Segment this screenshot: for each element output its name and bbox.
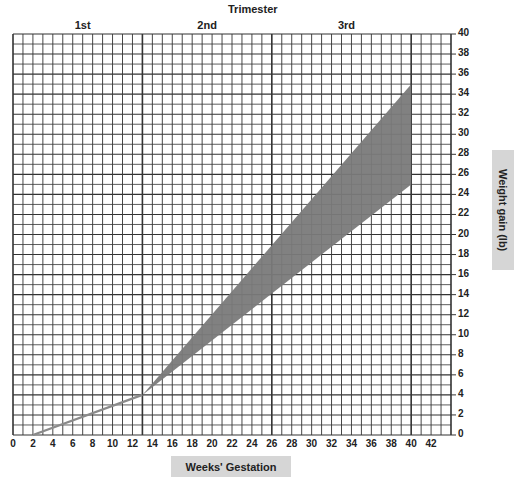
- y-tick-label: 30: [458, 127, 469, 138]
- x-tick-label: 28: [286, 438, 297, 449]
- x-tick-label: 8: [90, 438, 96, 449]
- y-tick-label: 22: [458, 207, 469, 218]
- x-tick-label: 38: [386, 438, 397, 449]
- x-tick-label: 40: [406, 438, 417, 449]
- y-tick-label: 24: [458, 187, 469, 198]
- x-tick-label: 16: [167, 438, 178, 449]
- y-tick-label: 12: [458, 308, 469, 319]
- x-tick-label: 24: [246, 438, 257, 449]
- y-tick-label: 26: [458, 167, 469, 178]
- y-tick-label: 2: [458, 408, 464, 419]
- y-tick-label: 10: [458, 328, 469, 339]
- y-tick-label: 34: [458, 87, 469, 98]
- y-tick-label: 36: [458, 67, 469, 78]
- x-tick-label: 10: [107, 438, 118, 449]
- y-tick-label: 6: [458, 368, 464, 379]
- x-axis-label: Weeks' Gestation: [171, 456, 291, 477]
- chart-plot-area: [0, 0, 514, 486]
- y-tick-label: 28: [458, 147, 469, 158]
- y-tick-label: 20: [458, 228, 469, 239]
- y-tick-label: 4: [458, 388, 464, 399]
- y-axis-label: Weight gain (lb): [492, 150, 514, 270]
- y-tick-label: 0: [458, 428, 464, 439]
- y-tick-label: 32: [458, 107, 469, 118]
- x-tick-label: 4: [50, 438, 56, 449]
- x-tick-label: 30: [306, 438, 317, 449]
- y-tick-label: 8: [458, 348, 464, 359]
- x-tick-label: 20: [207, 438, 218, 449]
- x-tick-label: 42: [426, 438, 437, 449]
- x-tick-label: 32: [326, 438, 337, 449]
- x-tick-label: 12: [127, 438, 138, 449]
- x-tick-label: 0: [10, 438, 16, 449]
- y-tick-label: 18: [458, 248, 469, 259]
- y-tick-label: 40: [458, 27, 469, 38]
- y-tick-label: 16: [458, 268, 469, 279]
- x-tick-label: 2: [30, 438, 36, 449]
- y-tick-label: 38: [458, 47, 469, 58]
- x-tick-label: 22: [226, 438, 237, 449]
- x-tick-label: 6: [70, 438, 76, 449]
- x-tick-label: 14: [147, 438, 158, 449]
- x-tick-label: 18: [187, 438, 198, 449]
- x-tick-label: 36: [366, 438, 377, 449]
- y-tick-label: 14: [458, 288, 469, 299]
- x-tick-label: 34: [346, 438, 357, 449]
- x-tick-label: 26: [266, 438, 277, 449]
